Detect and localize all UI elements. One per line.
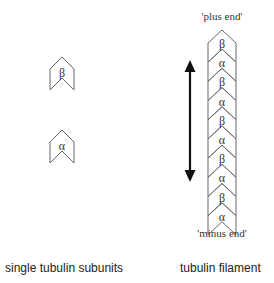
single-subunits-group: βα [50,57,74,163]
plus-end-label: 'plus end' [202,10,243,22]
filament-segment-alpha-label: α [219,171,226,185]
filament-segment-beta-label: β [219,75,225,89]
single-subunits-caption: single tubulin subunits [5,261,123,275]
filament-segment-alpha-label: α [219,56,226,70]
filament-segment-beta-label: β [219,191,225,205]
filament-caption: tubulin filament [180,261,261,275]
tubulin-filament: αβαβαβαβαβ [208,30,236,235]
filament-segment-alpha-label: α [219,210,226,224]
filament-segment-beta-label: β [219,37,225,51]
minus-end-label: 'minus end' [197,227,247,239]
tubulin-diagram: βα αβαβαβαβαβ 'plus end' 'minus end' sin… [0,0,274,283]
beta-subunit-label: β [59,66,65,80]
filament-segment-beta-label: β [219,152,225,166]
filament-segment-alpha-label: α [219,133,226,147]
double-headed-arrow-icon [185,60,196,182]
diagram-canvas: βα αβαβαβαβαβ [0,0,274,283]
alpha-subunit-label: α [59,139,66,153]
filament-segment-alpha-label: α [219,95,226,109]
filament-segment-beta-label: β [219,114,225,128]
